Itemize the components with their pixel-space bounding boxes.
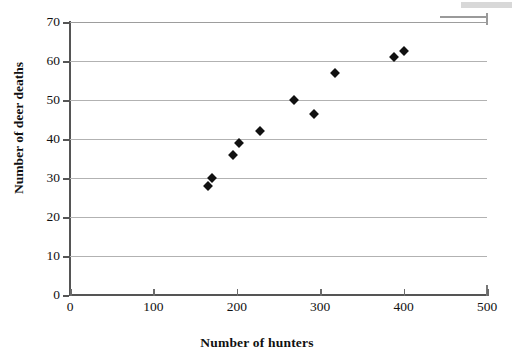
- x-tick: [237, 289, 239, 296]
- y-tick: [63, 61, 69, 63]
- plot-top-border: [70, 22, 488, 23]
- x-tick-label: 400: [381, 300, 427, 314]
- data-point: [228, 150, 238, 160]
- gridline: [70, 100, 487, 101]
- x-tick-label: 500: [464, 300, 510, 314]
- y-tick: [63, 100, 69, 102]
- x-tick: [70, 289, 72, 296]
- y-tick: [63, 22, 69, 24]
- y-axis-title: Number of deer deaths: [11, 13, 27, 243]
- y-tick-label: 50: [26, 93, 60, 107]
- scatter-chart-figure: 010203040506070 0100200300400500 Number …: [0, 0, 514, 362]
- y-tick-label: 60: [26, 54, 60, 68]
- y-tick-label: 20: [26, 210, 60, 224]
- y-tick-label: 10: [26, 249, 60, 263]
- y-tick: [63, 256, 69, 258]
- x-tick-label: 200: [214, 300, 260, 314]
- data-point: [289, 95, 299, 105]
- data-point: [309, 109, 319, 119]
- data-point: [330, 68, 340, 78]
- plot-area: [70, 22, 487, 295]
- x-tick: [320, 289, 322, 296]
- scan-artifact-bar: [461, 2, 512, 8]
- x-tick: [487, 289, 489, 296]
- data-point: [255, 126, 265, 136]
- y-tick-label: 70: [26, 15, 60, 29]
- gridline: [70, 178, 487, 179]
- y-tick-label: 30: [26, 171, 60, 185]
- y-tick: [63, 178, 69, 180]
- gridline: [70, 256, 487, 257]
- gridline: [70, 139, 487, 140]
- x-tick-label: 0: [47, 300, 93, 314]
- gridline: [70, 217, 487, 218]
- y-tick: [63, 295, 69, 297]
- x-tick: [404, 289, 406, 296]
- y-tick-label: 40: [26, 132, 60, 146]
- x-tick: [153, 289, 155, 296]
- x-tick-label: 100: [130, 300, 176, 314]
- y-tick: [63, 139, 69, 141]
- y-tick: [63, 217, 69, 219]
- x-tick-label: 300: [297, 300, 343, 314]
- scan-artifact-line: [440, 16, 488, 18]
- x-axis-title: Number of hunters: [0, 335, 514, 351]
- gridline: [70, 61, 487, 62]
- data-point: [399, 46, 409, 56]
